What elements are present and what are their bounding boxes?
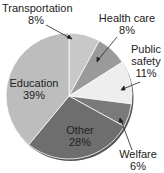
label-education-name: Education: [6, 77, 62, 89]
label-transportation-name: Transportation: [2, 2, 70, 14]
label-other: Other 28%: [60, 124, 100, 148]
label-health-care-name: Health care: [92, 12, 162, 24]
label-public-safety-name: Public: [128, 43, 164, 55]
label-education-pct: 39%: [6, 89, 62, 101]
label-education: Education 39%: [6, 77, 62, 101]
label-transportation-pct: 8%: [2, 14, 70, 26]
label-transportation: Transportation 8%: [2, 2, 70, 26]
label-welfare: Welfare 6%: [114, 148, 162, 172]
label-health-care-pct: 8%: [92, 24, 162, 36]
label-health-care: Health care 8%: [92, 12, 162, 36]
label-welfare-name: Welfare: [114, 148, 162, 160]
label-other-name: Other: [60, 124, 100, 136]
label-public-safety-pct: 11%: [128, 67, 164, 79]
label-welfare-pct: 6%: [114, 160, 162, 172]
label-other-pct: 28%: [60, 136, 100, 148]
label-public-safety-name2: safety: [128, 55, 164, 67]
label-public-safety: Public safety 11%: [128, 43, 164, 79]
